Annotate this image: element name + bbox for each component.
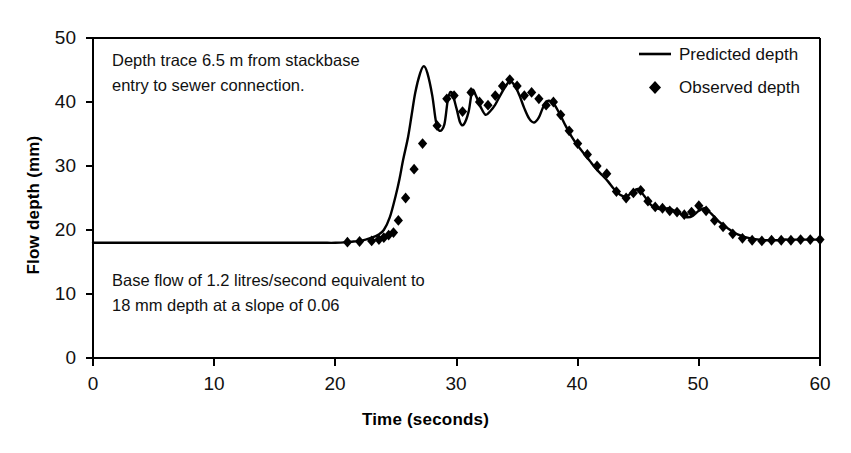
observed-depth-marker [534, 93, 543, 104]
legend-label-predicted-depth: Predicted depth [679, 45, 798, 65]
observed-depth-marker [583, 149, 592, 160]
observed-depth-marker [401, 193, 410, 204]
x-tick-label-60: 60 [795, 373, 845, 395]
observed-depth-marker [806, 234, 815, 245]
x-tick-label-0: 0 [68, 373, 118, 395]
observed-depth-marker [757, 235, 766, 246]
observed-depth-marker [767, 235, 776, 246]
annotation-depth-trace: Depth trace 6.5 m from stackbase entry t… [112, 48, 360, 98]
annotation-base-flow-line1: Base flow of 1.2 litres/second equivalen… [112, 268, 425, 293]
legend-label-observed-depth: Observed depth [679, 78, 800, 98]
y-tick-label-0: 0 [28, 347, 76, 369]
y-axis-title: Flow depth (mm) [24, 75, 44, 335]
observed-depth-marker [512, 81, 521, 92]
x-tick-label-50: 50 [673, 373, 723, 395]
observed-depth-marker [592, 161, 601, 172]
observed-depth-marker [498, 81, 507, 92]
observed-depth-marker [815, 234, 824, 245]
observed-depth-marker [786, 235, 795, 246]
observed-depth-marker [665, 205, 674, 216]
observed-depth-marker [748, 235, 757, 246]
observed-depth-marker [355, 236, 364, 247]
observed-depth-marker [777, 235, 786, 246]
observed-depth-marker [672, 207, 681, 218]
x-tick-label-40: 40 [552, 373, 602, 395]
y-tick-label-50: 50 [28, 27, 76, 49]
x-tick-label-20: 20 [310, 373, 360, 395]
x-axis-title: Time (seconds) [0, 410, 851, 430]
x-tick-label-10: 10 [189, 373, 239, 395]
annotation-depth-trace-line2: entry to sewer connection. [112, 73, 360, 98]
annotation-base-flow-line2: 18 mm depth at a slope of 0.06 [112, 293, 425, 318]
observed-depth-marker [418, 138, 427, 149]
chart-figure: 50 40 30 20 10 0 0 10 20 30 40 50 60 Tim… [0, 0, 851, 453]
x-axis-ticks [93, 358, 820, 366]
x-tick-label-30: 30 [431, 373, 481, 395]
legend-diamond-swatch [649, 81, 661, 94]
observed-depth-marker [409, 164, 418, 175]
observed-depth-marker [343, 237, 352, 248]
annotation-depth-trace-line1: Depth trace 6.5 m from stackbase [112, 48, 360, 73]
observed-depth-marker [796, 234, 805, 245]
observed-depth-marker [394, 215, 403, 226]
observed-depth-marker [710, 215, 719, 226]
observed-depth-marker [658, 203, 667, 214]
annotation-base-flow: Base flow of 1.2 litres/second equivalen… [112, 268, 425, 318]
legend-box [639, 54, 671, 94]
observed-depth-marker [466, 87, 475, 98]
observed-depth-marker [651, 202, 660, 213]
observed-depth-marker [702, 205, 711, 216]
observed-depth-marker [433, 120, 442, 131]
